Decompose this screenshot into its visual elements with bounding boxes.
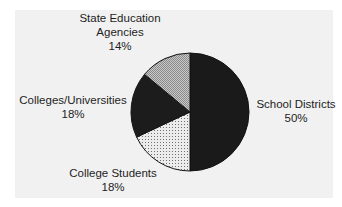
label-colleges-universities: Colleges/Universities 18% [12,93,134,121]
pie-slice-school-districts [190,53,249,171]
label-percent: 18% [58,180,168,194]
label-percent: 50% [250,111,342,125]
label-state-education-agencies: State Education Agencies 14% [66,11,174,53]
label-name-line2: Agencies [66,25,174,39]
label-percent: 18% [12,107,134,121]
label-percent: 14% [66,39,174,53]
label-school-districts: School Districts 50% [250,97,342,125]
label-name: School Districts [250,97,342,111]
label-college-students: College Students 18% [58,166,168,194]
label-name-line1: State Education [66,11,174,25]
label-name: Colleges/Universities [12,93,134,107]
label-name: College Students [58,166,168,180]
